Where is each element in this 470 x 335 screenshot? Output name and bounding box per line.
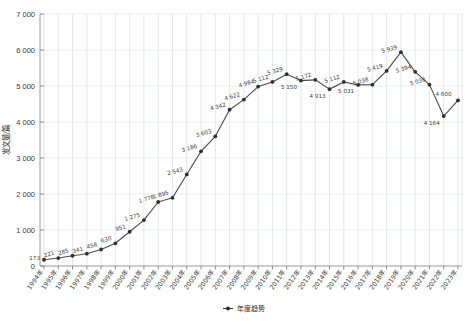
data-point — [456, 99, 460, 103]
data-point-label: 5 394 — [395, 63, 412, 73]
y-tick-label: 1 000 — [16, 226, 35, 235]
chart-legend: 年度趋势 — [223, 304, 265, 313]
data-point-label: 5 112 — [252, 74, 269, 84]
data-point-label: 1 895 — [152, 189, 169, 199]
data-point — [285, 72, 289, 76]
y-tick-label: 6 000 — [16, 46, 35, 55]
data-point-label: 5 329 — [266, 66, 283, 76]
y-tick-label: 2 000 — [16, 190, 35, 199]
y-tick-label: 3 000 — [16, 154, 35, 163]
y-axis-title: 发文量/篇 — [1, 124, 11, 156]
data-point-label: 4 622 — [224, 91, 241, 101]
data-point-label: 458 — [86, 241, 98, 250]
y-axis-ticks — [40, 14, 44, 266]
data-point-label: 5 031 — [338, 88, 354, 94]
data-point — [199, 149, 203, 153]
y-axis-tick-labels: 01 0002 0003 0004 0005 0006 0007 000 — [16, 10, 35, 271]
data-point — [228, 108, 232, 112]
data-point-label: 173 — [29, 255, 40, 261]
data-point — [256, 85, 260, 89]
data-point — [242, 98, 246, 102]
data-point-label: 951 — [115, 223, 127, 232]
data-point — [71, 254, 75, 258]
chart-canvas: 01 0002 0003 0004 0005 0006 0007 000 199… — [0, 0, 470, 335]
data-point-label: 4 342 — [209, 101, 226, 111]
data-point-label: 3 603 — [195, 128, 212, 138]
data-point — [128, 230, 132, 234]
data-point — [113, 241, 117, 245]
series-data-labels: 1732212853414586309511 2751 7781 8952 54… — [29, 44, 452, 262]
data-point-label: 341 — [72, 245, 84, 254]
data-point — [442, 114, 446, 118]
data-point — [99, 248, 103, 252]
x-axis-tick-labels: 1994年1995年1996年1997年1998年1999年2000年2001年… — [24, 267, 459, 291]
data-point-label: 5 939 — [381, 44, 398, 54]
data-point-label: 285 — [57, 247, 69, 256]
data-point — [271, 80, 275, 84]
data-point — [342, 80, 346, 84]
data-point — [56, 256, 60, 260]
data-point — [370, 83, 374, 87]
y-tick-label: 4 000 — [16, 118, 35, 127]
data-point — [385, 69, 389, 73]
data-point-label: 2 543 — [166, 166, 183, 176]
chart-axes — [40, 14, 462, 266]
data-point — [213, 134, 217, 138]
data-point — [399, 50, 403, 54]
data-point-label: 5 112 — [324, 74, 341, 84]
y-tick-label: 0 — [31, 262, 35, 271]
data-point — [142, 218, 146, 222]
legend-marker-dot — [226, 307, 230, 311]
data-point-label: 5 150 — [281, 84, 297, 90]
data-point — [171, 196, 175, 200]
legend-label-annual-trend: 年度趋势 — [237, 304, 265, 313]
line-chart: 01 0002 0003 0004 0005 0006 0007 000 199… — [0, 0, 470, 335]
x-tick-label: 2023年 — [438, 267, 459, 291]
data-point-label: 3 186 — [181, 143, 198, 153]
data-point-label: 5 038 — [409, 76, 426, 86]
data-point — [85, 252, 89, 256]
data-point-label: 4 164 — [424, 120, 440, 126]
data-point — [413, 70, 417, 74]
data-point — [185, 173, 189, 177]
data-point-label: 630 — [100, 235, 112, 244]
data-point-label: 4 913 — [310, 93, 326, 99]
data-point — [156, 200, 160, 204]
data-point-label: 1 275 — [124, 212, 141, 222]
y-tick-label: 5 000 — [16, 82, 35, 91]
data-point-label: 5 419 — [366, 62, 383, 72]
data-point-label: 4 600 — [435, 91, 451, 97]
y-tick-label: 7 000 — [16, 10, 35, 19]
data-point — [313, 78, 317, 82]
horizontal-gridlines — [40, 14, 462, 230]
data-point — [428, 83, 432, 87]
data-point-label: 221 — [43, 250, 55, 259]
data-point — [328, 87, 332, 91]
